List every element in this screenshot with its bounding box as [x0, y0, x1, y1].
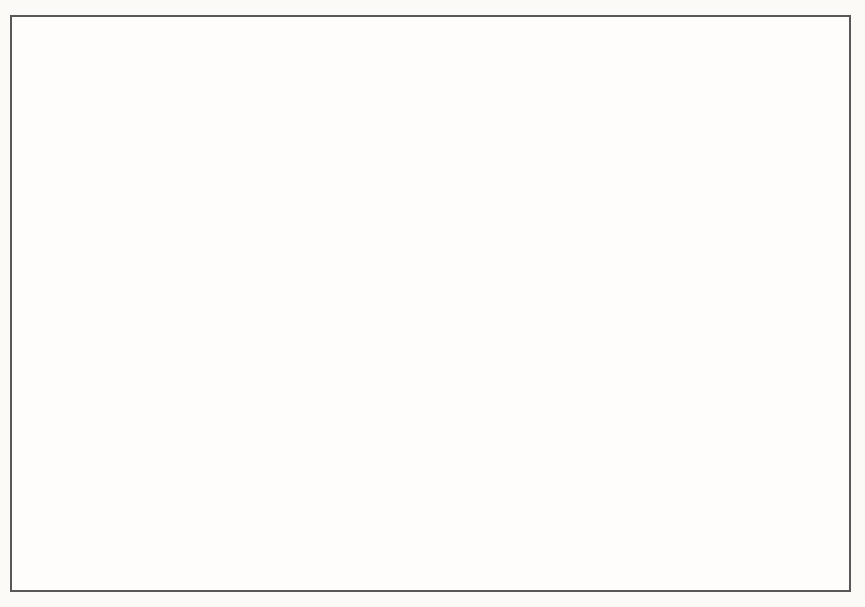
x-axis-tick-labels: [0, 527, 865, 553]
figure-page: [0, 0, 865, 607]
figure-canvas: [0, 0, 865, 607]
